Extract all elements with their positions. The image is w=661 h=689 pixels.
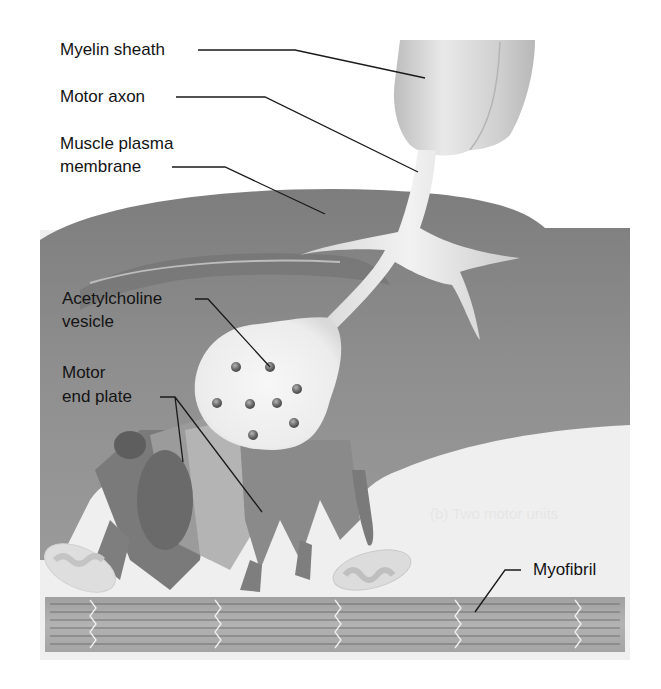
label-muscle-plasma-membrane-line2: membrane [60,156,141,177]
label-motor-end-plate-line1: Motor [62,362,105,383]
label-acetylcholine-vesicle-line1: Acetylcholine [62,288,162,309]
label-motor-axon: Motor axon [60,86,145,107]
myelin-sheath [394,40,535,155]
bleed-through-caption: (b) Two motor units [430,505,558,522]
label-myofibril: Myofibril [533,559,596,580]
myofibril [45,597,625,652]
leader-motor-axon [176,97,418,172]
label-acetylcholine-vesicle-line2: vesicle [62,311,114,332]
leader-myelin-sheath [198,50,425,78]
label-myelin-sheath: Myelin sheath [60,39,165,60]
label-muscle-plasma-membrane-line1: Muscle plasma [60,133,173,154]
label-motor-end-plate-line2: end plate [62,386,132,407]
